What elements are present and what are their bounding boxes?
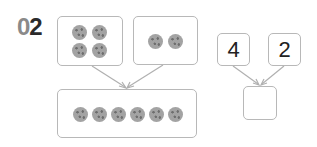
addend-2-value: 2 — [278, 37, 290, 63]
cookie-icon — [148, 34, 163, 49]
cookie-icon — [92, 107, 107, 122]
cookie-icon — [72, 43, 87, 58]
group-a-box — [57, 16, 123, 66]
cookie-icon — [92, 43, 107, 58]
cookie-icon — [130, 107, 145, 122]
cookie-icon — [111, 107, 126, 122]
cookie-icon — [168, 107, 183, 122]
addend-1-value: 4 — [227, 37, 239, 63]
cookie-icon — [73, 107, 88, 122]
answer-box[interactable] — [243, 86, 277, 120]
cookie-icon — [149, 107, 164, 122]
addend-box-2: 2 — [268, 33, 301, 66]
cookie-icon — [168, 34, 183, 49]
total-box — [57, 89, 197, 138]
addend-box-1: 4 — [217, 33, 250, 66]
cookie-icon — [72, 25, 87, 40]
cookie-icon — [92, 25, 107, 40]
group-b-box — [133, 16, 198, 65]
